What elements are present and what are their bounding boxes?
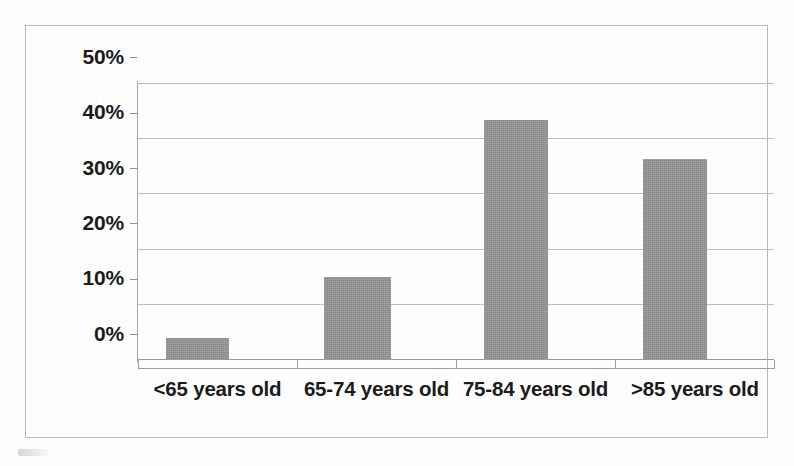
y-tick-mark-0 <box>130 334 137 335</box>
bar-65-74[interactable] <box>324 277 391 360</box>
y-tick-label-50: 50% <box>52 45 124 69</box>
category-axis-labels: <65 years old 65-74 years old 75-84 year… <box>138 375 775 445</box>
category-tick-1 <box>297 360 298 369</box>
bar-over-85[interactable] <box>643 159 707 360</box>
bar-75-84[interactable] <box>484 120 548 360</box>
y-tick-label-20: 20% <box>52 211 124 235</box>
category-label-65-74: 65-74 years old <box>300 375 453 402</box>
category-tick-0 <box>138 360 139 369</box>
category-label-under-65: <65 years old <box>138 375 297 402</box>
category-label-over-85: >85 years old <box>616 375 774 402</box>
category-tick-3 <box>615 360 616 369</box>
bars-layer <box>138 83 774 360</box>
category-label-75-84: 75-84 years old <box>459 375 612 402</box>
y-tick-mark-10 <box>130 279 137 280</box>
y-axis-labels: 50% 40% 30% 20% 10% 0% <box>46 26 124 439</box>
y-tick-label-40: 40% <box>52 100 124 124</box>
y-tick-mark-30 <box>130 168 137 169</box>
y-tick-mark-50 <box>130 57 137 58</box>
category-axis <box>138 360 775 369</box>
category-tick-2 <box>456 360 457 369</box>
scan-artifact <box>18 449 48 456</box>
chart-frame: 50% 40% 30% 20% 10% 0% <box>25 25 768 438</box>
category-tick-4 <box>774 360 775 369</box>
y-tick-mark-20 <box>130 223 137 224</box>
bar-under-65[interactable] <box>166 338 229 360</box>
y-tick-label-10: 10% <box>52 266 124 290</box>
scanned-page: 50% 40% 30% 20% 10% 0% <box>0 0 794 466</box>
y-tick-mark-40 <box>130 113 137 114</box>
y-tick-label-30: 30% <box>52 156 124 180</box>
y-tick-label-0: 0% <box>52 322 124 346</box>
